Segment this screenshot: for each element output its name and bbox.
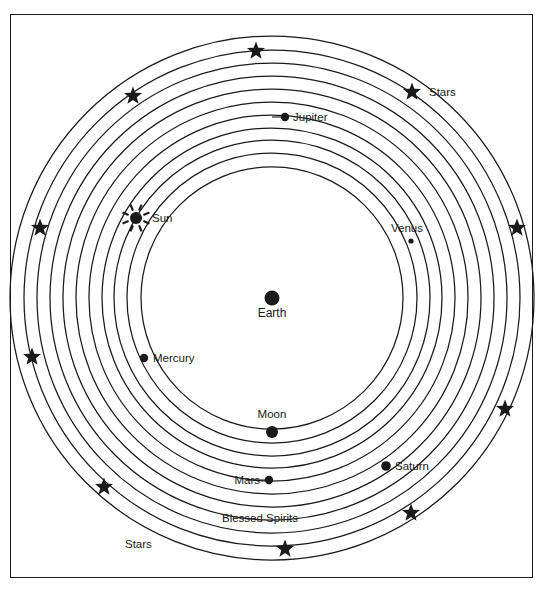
venus-dot — [408, 238, 413, 243]
mars-dot — [265, 476, 273, 484]
star-icon — [247, 42, 265, 59]
geocentric-cosmos-diagram: EarthMoonMercuryVenusSunMarsJupiterSatur… — [0, 0, 546, 589]
star-icon — [496, 400, 514, 417]
star-icon — [402, 504, 420, 521]
label-stars-upper-right: Stars — [429, 86, 456, 98]
label-stars-lower-left: Stars — [125, 538, 152, 550]
label-mercury: Mercury — [153, 352, 195, 364]
jupiter-dot — [281, 113, 289, 121]
label-venus: Venus — [391, 222, 423, 234]
mercury-dot — [140, 354, 148, 362]
label-earth: Earth — [258, 306, 287, 320]
star-icon — [508, 219, 526, 236]
earth-dot — [265, 291, 280, 306]
label-mars: Mars — [234, 474, 260, 486]
label-moon: Moon — [258, 408, 287, 420]
star-icon — [276, 540, 294, 557]
label-sun: Sun — [152, 212, 172, 224]
label-blessed-spirits: Blessed Spirits — [222, 512, 298, 524]
moon-dot — [266, 426, 278, 438]
label-saturn: Saturn — [395, 460, 429, 472]
star-icon — [95, 478, 113, 495]
saturn-dot — [381, 461, 391, 471]
sun-dot — [130, 212, 142, 224]
label-jupiter: Jupiter — [293, 111, 328, 123]
